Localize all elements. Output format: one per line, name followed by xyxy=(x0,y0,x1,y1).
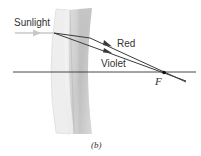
sunlight-label: Sunlight xyxy=(14,18,50,28)
lens xyxy=(51,8,92,134)
sunlight-arrow xyxy=(15,30,54,37)
violet-label: Violet xyxy=(101,59,126,69)
focal-point-dot xyxy=(162,71,166,75)
figure-caption: (b) xyxy=(91,141,102,150)
violet-arrow-icon xyxy=(103,48,112,53)
focal-point-label: F xyxy=(155,76,162,87)
red-arrow-icon xyxy=(103,40,112,47)
red-label: Red xyxy=(117,39,135,49)
